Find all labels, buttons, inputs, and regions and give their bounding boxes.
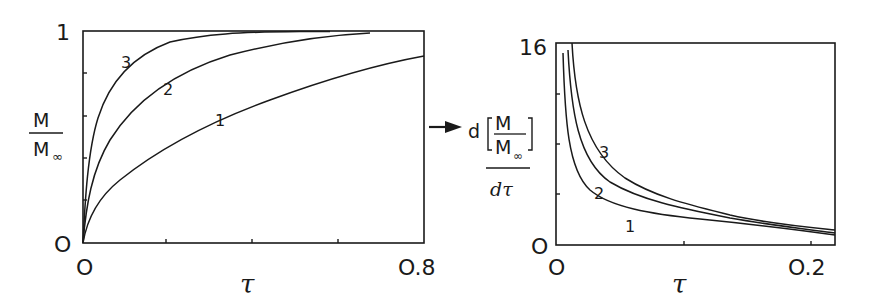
left-y-tick-top: 1	[56, 20, 70, 45]
arrow-icon	[429, 121, 462, 133]
right-y-tick-bottom: O	[531, 234, 548, 259]
right-x-axis-label: τ	[672, 269, 687, 299]
right-y-inner-numerator: M	[495, 112, 511, 134]
right-chart: 3 2 1 16 O O O.2 τ d M M ∞ dτ	[468, 35, 835, 299]
left-y-axis-label: M M ∞	[29, 109, 63, 164]
right-y-inner-denominator-sub: ∞	[513, 149, 523, 163]
right-curve-2	[568, 50, 835, 233]
left-x-tick-right: O.8	[398, 255, 435, 280]
right-y-axis-label: d M M ∞ dτ	[468, 112, 532, 200]
left-y-denominator-sub: ∞	[52, 149, 63, 164]
figure-canvas: 3 2 1 1 O O O.8 τ M M ∞	[0, 0, 876, 302]
right-y-inner-denominator: M	[495, 136, 511, 158]
right-y-d: d	[468, 120, 480, 142]
left-x-tick-left: O	[76, 255, 93, 280]
right-x-tick-left: O	[548, 255, 565, 280]
left-chart: 3 2 1 1 O O O.8 τ M M ∞	[29, 20, 435, 299]
left-curve-label-3: 3	[121, 53, 131, 72]
right-curve-label-1: 1	[625, 217, 635, 236]
left-curve-label-2: 2	[163, 80, 173, 99]
left-y-denominator: M	[33, 138, 49, 160]
right-curve-label-3: 3	[599, 143, 609, 162]
right-y-tick-top: 16	[519, 35, 547, 60]
left-x-axis-label: τ	[240, 269, 255, 299]
left-curve-1	[83, 56, 424, 243]
right-curve-label-2: 2	[594, 184, 604, 203]
right-y-outer-denominator: dτ	[490, 178, 513, 200]
left-y-numerator: M	[33, 109, 49, 131]
left-curve-label-1: 1	[215, 111, 225, 130]
left-y-tick-bottom: O	[54, 232, 71, 257]
right-x-tick-right: O.2	[788, 255, 825, 280]
right-plot-frame	[556, 43, 835, 245]
